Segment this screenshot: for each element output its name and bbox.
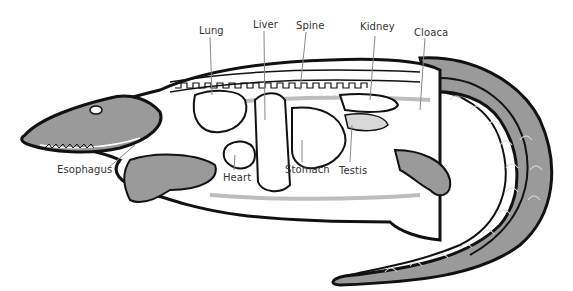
lung-shape	[194, 91, 247, 132]
body	[22, 59, 451, 240]
label-stomach: Stomach	[285, 164, 330, 175]
label-spine: Spine	[296, 20, 324, 31]
heart-shape	[224, 142, 255, 169]
label-cloaca: Cloaca	[414, 27, 448, 38]
alligator-illustration	[0, 0, 573, 291]
eye	[90, 106, 102, 114]
label-heart: Heart	[223, 172, 251, 183]
label-lung: Lung	[199, 25, 224, 36]
alligator-anatomy-diagram: Lung Liver Spine Kidney Cloaca Esophagus…	[0, 0, 573, 291]
label-liver: Liver	[253, 19, 278, 30]
liver-shape	[255, 93, 290, 191]
label-kidney: Kidney	[360, 21, 395, 32]
label-esophagus: Esophagus	[57, 164, 112, 175]
label-testis: Testis	[339, 165, 367, 176]
